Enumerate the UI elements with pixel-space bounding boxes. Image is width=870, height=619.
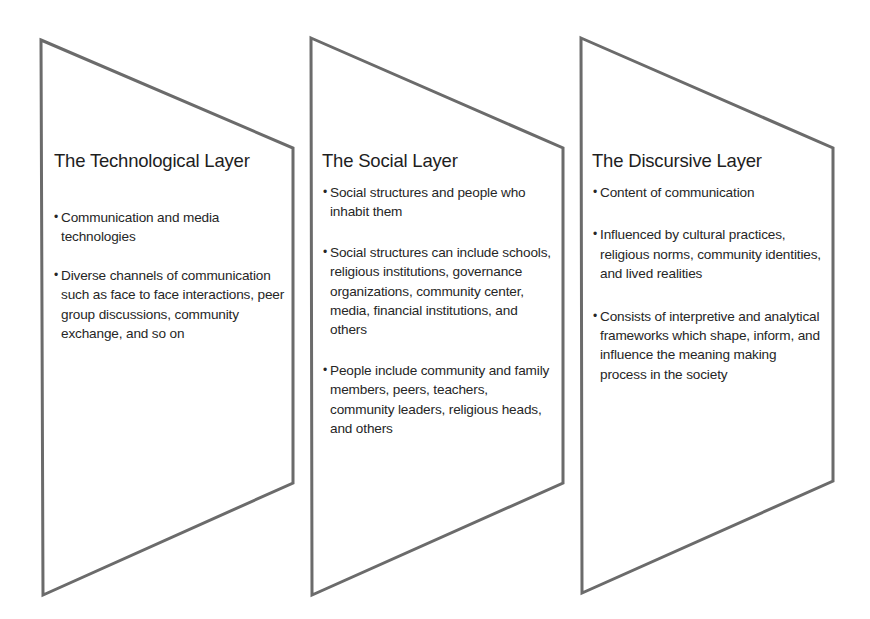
- bullet-item: • Content of communication: [600, 183, 820, 202]
- discursive-layer: The Discursive Layer • Content of commun…: [0, 0, 870, 619]
- layer-title: The Discursive Layer: [592, 150, 762, 172]
- bullet-item: • Influenced by cultural practices, reli…: [600, 225, 822, 283]
- bullet-list: • Content of communication • Influenced …: [600, 183, 828, 384]
- bullet-icon: •: [593, 225, 597, 244]
- bullet-icon: •: [593, 307, 597, 326]
- bullet-item: • Consists of interpretive and analytica…: [600, 307, 826, 385]
- bullet-icon: •: [593, 183, 597, 202]
